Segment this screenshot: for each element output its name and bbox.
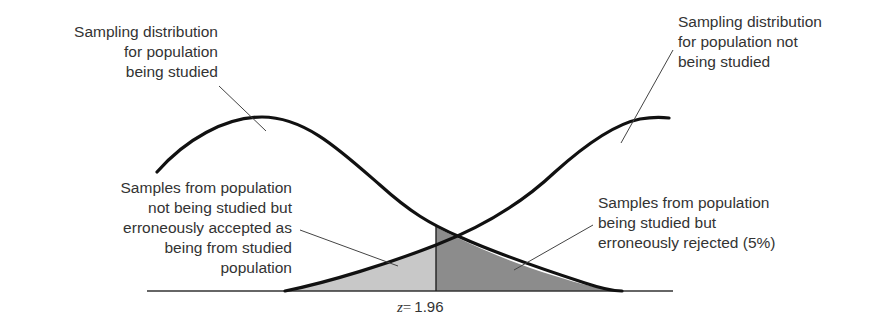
label-right-distribution: Sampling distribution for population not… xyxy=(678,12,888,72)
label-accepted-region: Samples from population not being studie… xyxy=(60,178,292,278)
critical-value-label: z= 1.96 xyxy=(397,298,444,316)
label-rejected-region: Samples from population being studied bu… xyxy=(598,193,858,253)
leader-line-accepted-region xyxy=(300,230,398,266)
label-left-distribution: Sampling distribution for population bei… xyxy=(40,22,218,82)
leader-line-right-distribution xyxy=(621,50,673,143)
leader-line-rejected-region xyxy=(514,225,593,270)
rejected-error-region xyxy=(436,227,620,291)
z-value: 1.96 xyxy=(414,298,443,315)
equals-sign: = xyxy=(403,299,411,315)
